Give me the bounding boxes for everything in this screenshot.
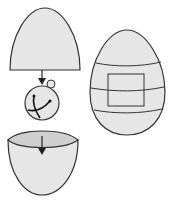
egg-top-half bbox=[10, 8, 80, 70]
assembled-egg bbox=[90, 30, 165, 135]
egg-bottom-half bbox=[8, 131, 78, 195]
bell-ball bbox=[25, 80, 59, 120]
diagram-canvas bbox=[0, 0, 173, 201]
arrow-down-icon bbox=[38, 70, 46, 85]
